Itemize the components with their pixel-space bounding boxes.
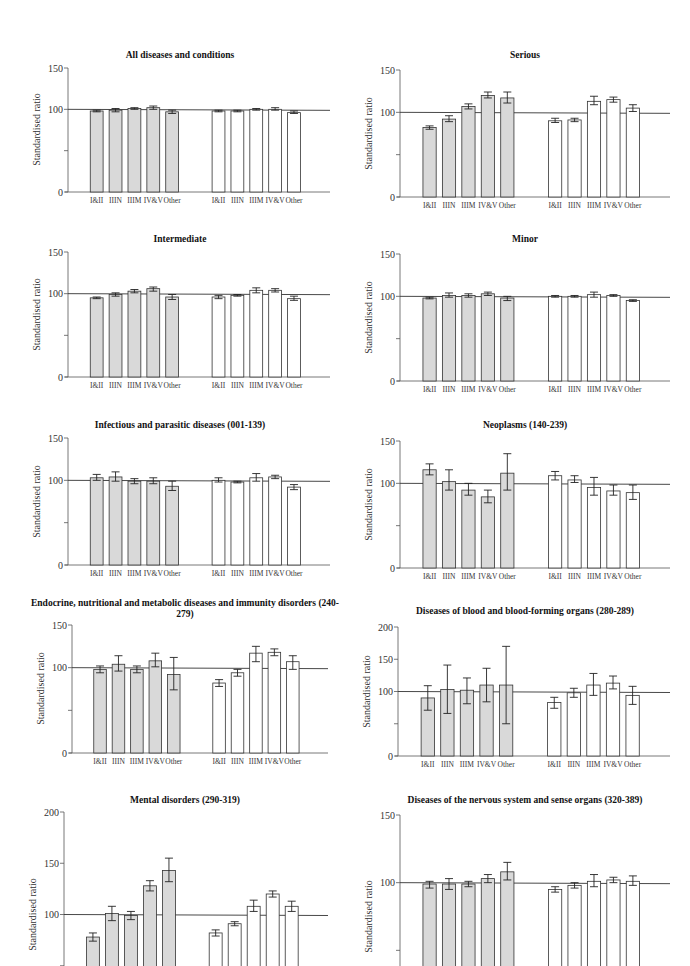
x-tick-label: IV&V bbox=[604, 385, 624, 394]
chart-svg: 0100150I&IIIIINIIIMIV&VOtherI&IIIIINIIIM… bbox=[360, 412, 690, 592]
y-tick-label: 150 bbox=[378, 654, 393, 665]
bar-group2-iiin bbox=[231, 482, 244, 565]
x-tick-label: IV&V bbox=[144, 196, 164, 205]
x-tick-label: Other bbox=[164, 196, 182, 205]
bar-group1-other bbox=[162, 870, 175, 966]
bar-group2-iiim bbox=[250, 653, 263, 753]
y-tick-label: 0 bbox=[390, 192, 395, 203]
chart-panel: Diseases of the nervous system and sense… bbox=[360, 787, 690, 933]
chart-panel: SeriousStandardised ratio0100150I&IIIIIN… bbox=[360, 42, 690, 217]
bar-group2-iiim bbox=[587, 101, 600, 197]
x-tick-label: IV&V bbox=[603, 760, 623, 769]
x-tick-label: IIIN bbox=[567, 760, 580, 769]
bar-group2-iiim bbox=[587, 881, 600, 966]
reference-line bbox=[68, 294, 330, 295]
x-tick-label: IIIN bbox=[109, 569, 122, 578]
chart-svg: 0100150200I&IIIIINIIIMIV&VOtherI&IIIIINI… bbox=[360, 598, 690, 778]
bar-group2-iii bbox=[212, 480, 225, 565]
bar-group1-other bbox=[166, 112, 179, 192]
bar-group2-ivv bbox=[269, 290, 282, 377]
bar-group2-ivv bbox=[268, 652, 281, 753]
bar-group2-ivv bbox=[269, 109, 282, 192]
x-tick-label: IIIN bbox=[443, 385, 456, 394]
bar-group2-iiin bbox=[231, 673, 244, 753]
x-tick-label: Other bbox=[285, 569, 303, 578]
y-tick-label: 0 bbox=[58, 187, 63, 198]
bar-group2-iiin bbox=[228, 924, 241, 966]
chart-panel: IntermediateStandardised ratio0100150I&I… bbox=[20, 226, 340, 396]
bar-group1-iii bbox=[423, 470, 436, 568]
bar-group2-ivv bbox=[606, 683, 619, 756]
chart-svg: 0100150I&IIIIINIIIMIV&VOtherI&IIIIINIIIM… bbox=[360, 42, 690, 217]
x-tick-label: Other bbox=[164, 381, 182, 390]
y-tick-label: 150 bbox=[48, 433, 63, 444]
chart-panel: Neoplasms (140-239)Standardised ratio010… bbox=[360, 412, 690, 592]
x-tick-label: IV&V bbox=[144, 381, 164, 390]
bar-group2-other bbox=[626, 108, 639, 197]
y-tick-label: 100 bbox=[48, 288, 63, 299]
reference-line bbox=[400, 483, 670, 484]
x-tick-label: IIIM bbox=[586, 760, 600, 769]
x-tick-label: I&II bbox=[423, 201, 437, 210]
x-tick-label: IIIN bbox=[441, 760, 454, 769]
bar-group1-ivv bbox=[481, 879, 494, 966]
y-tick-label: 150 bbox=[380, 65, 395, 76]
x-tick-label: IIIM bbox=[461, 201, 475, 210]
x-tick-label: Other bbox=[285, 381, 303, 390]
chart-panel: Diseases of blood and blood-forming orga… bbox=[360, 598, 690, 778]
bar-group1-ivv bbox=[149, 661, 162, 753]
x-tick-label: IIIN bbox=[568, 385, 581, 394]
x-tick-label: IIIN bbox=[568, 572, 581, 581]
x-tick-label: IIIM bbox=[249, 196, 263, 205]
y-tick-label: 100 bbox=[380, 877, 395, 888]
bar-group1-ivv bbox=[147, 289, 160, 377]
x-tick-label: Other bbox=[624, 385, 642, 394]
x-tick-label: Other bbox=[624, 572, 642, 581]
bar-group1-iiin bbox=[442, 119, 455, 197]
bar-group1-ivv bbox=[481, 95, 494, 197]
bar-group1-iiim bbox=[128, 109, 141, 192]
bar-group1-iiin bbox=[442, 884, 455, 966]
bar-group2-other bbox=[288, 487, 301, 565]
bar-group2-iii bbox=[212, 297, 225, 377]
bar-group2-other bbox=[288, 299, 301, 377]
bar-group2-iiin bbox=[568, 885, 581, 966]
bar-group1-ivv bbox=[481, 294, 494, 381]
y-tick-label: 0 bbox=[58, 560, 63, 571]
chart-panel: MinorStandardised ratio0100150I&IIIIINII… bbox=[360, 226, 690, 401]
x-tick-label: IIIM bbox=[127, 196, 141, 205]
bar-group2-other bbox=[288, 113, 301, 192]
reference-line bbox=[398, 692, 670, 693]
y-tick-label: 150 bbox=[48, 63, 63, 74]
bar-group1-other bbox=[166, 486, 179, 565]
bar-group2-iiim bbox=[587, 295, 600, 381]
x-tick-label: IIIM bbox=[587, 385, 601, 394]
y-tick-label: 0 bbox=[58, 372, 63, 383]
x-tick-label: IIIN bbox=[231, 569, 244, 578]
bar-group1-iii bbox=[423, 128, 436, 197]
bar-group1-other bbox=[501, 872, 514, 966]
bar-group2-iii bbox=[209, 933, 222, 966]
x-tick-label: IIIN bbox=[231, 381, 244, 390]
x-tick-label: IIIM bbox=[461, 385, 475, 394]
x-tick-label: I&II bbox=[423, 385, 437, 394]
chart-svg: 0100150I&IIIIINIIIMIV&VOtherI&IIIIINIIIM… bbox=[20, 226, 340, 396]
x-tick-label: Other bbox=[498, 760, 516, 769]
x-tick-label: IV&V bbox=[604, 572, 624, 581]
x-tick-label: Other bbox=[499, 201, 517, 210]
bar-group2-ivv bbox=[266, 894, 279, 966]
bar-group1-iiin bbox=[105, 913, 118, 966]
x-tick-label: I&II bbox=[212, 381, 226, 390]
x-tick-label: IIIN bbox=[568, 201, 581, 210]
x-tick-label: IIIM bbox=[460, 760, 474, 769]
bar-group2-iiim bbox=[247, 906, 260, 966]
x-tick-label: IV&V bbox=[266, 569, 286, 578]
bar-group2-iii bbox=[213, 683, 226, 753]
x-tick-label: IV&V bbox=[266, 381, 286, 390]
bar-group2-iii bbox=[549, 296, 562, 381]
x-tick-label: Other bbox=[284, 757, 302, 766]
x-tick-label: I&II bbox=[423, 572, 437, 581]
bar-group1-iii bbox=[423, 884, 436, 966]
x-tick-label: Other bbox=[624, 760, 642, 769]
bar-group2-iiin bbox=[568, 120, 581, 197]
